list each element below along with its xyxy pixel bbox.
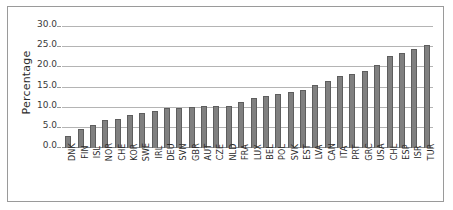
- bar-cell: [272, 27, 284, 148]
- y-axis-tick-label: 15.0: [37, 80, 57, 90]
- bar-cell: [322, 27, 334, 148]
- x-axis-tick-label: CAN: [322, 150, 334, 194]
- x-axis-tick-label: NOR: [99, 150, 111, 194]
- bar-cell: [186, 27, 198, 148]
- x-axis-tick-label: CZE: [210, 150, 222, 194]
- bar-cell: [235, 27, 247, 148]
- x-axis-tick-label: TUR: [420, 150, 432, 194]
- bar-cell: [247, 27, 259, 148]
- bar: [176, 108, 182, 148]
- y-axis-tick-label: 20.0: [37, 59, 57, 69]
- bar: [288, 92, 294, 148]
- x-axis-tick-label: DEU: [161, 150, 173, 194]
- bar-cell: [383, 27, 395, 148]
- bar-cell: [136, 27, 148, 148]
- x-axis-tick-label: ISR: [408, 150, 420, 194]
- bar: [152, 111, 158, 148]
- x-axis-tick-label: GBR: [186, 150, 198, 194]
- plot-area: 0.05.010.015.020.025.030.0: [62, 27, 433, 148]
- x-axis-tick-label: LUX: [247, 150, 259, 194]
- bar: [263, 96, 269, 148]
- x-axis-tick-label: LVA: [309, 150, 321, 194]
- bar-cell: [173, 27, 185, 148]
- bar: [213, 106, 219, 148]
- bar-cell: [309, 27, 321, 148]
- bar-cell: [408, 27, 420, 148]
- bar-cell: [99, 27, 111, 148]
- y-axis-tick-label: 10.0: [37, 100, 57, 110]
- x-axis-tick-label: ISL: [87, 150, 99, 194]
- x-axis-tick-label: FIN: [74, 150, 86, 194]
- x-axis-tick-label: FRA: [235, 150, 247, 194]
- x-axis-tick-label: SWE: [136, 150, 148, 194]
- bar: [387, 56, 393, 148]
- bar-cell: [87, 27, 99, 148]
- bar: [374, 65, 380, 148]
- bar: [325, 81, 331, 148]
- y-axis-tickmark: [57, 147, 61, 148]
- y-axis-title: Percentage: [16, 17, 38, 147]
- x-axis-tick-label: ITA: [334, 150, 346, 194]
- bar: [226, 106, 232, 148]
- bar: [251, 98, 257, 148]
- y-axis-tickmark: [57, 127, 61, 128]
- bar-cell: [359, 27, 371, 148]
- bar-cell: [62, 27, 74, 148]
- y-axis-tick-label: 25.0: [37, 39, 57, 49]
- y-axis-tick-label: 5.0: [43, 120, 57, 130]
- x-axis-tick-label-text: TUR: [427, 144, 436, 161]
- bar-cell: [396, 27, 408, 148]
- bar: [411, 49, 417, 148]
- y-axis-tickmark: [57, 46, 61, 47]
- bar: [189, 107, 195, 148]
- y-axis-tick-label: 30.0: [37, 19, 57, 29]
- bar: [238, 102, 244, 148]
- bar-cell: [74, 27, 86, 148]
- y-axis-tickmark: [57, 107, 61, 108]
- y-axis-title-text: Percentage: [21, 50, 34, 114]
- bar-cell: [297, 27, 309, 148]
- x-axis-tick-label: BEL: [260, 150, 272, 194]
- x-axis-tick-label: EST: [297, 150, 309, 194]
- bar: [399, 53, 405, 148]
- y-axis-tickmark: [57, 26, 61, 27]
- x-axis-tick-label: POL: [272, 150, 284, 194]
- bar: [201, 106, 207, 148]
- x-axis-tick-labels: DNKFINISLNORCHEKORSWEIRLDEUSVNGBRAUTCZEN…: [62, 150, 433, 194]
- bar-cell: [371, 27, 383, 148]
- x-axis-tick-label: NLD: [223, 150, 235, 194]
- x-axis-tick-label: ESP: [396, 150, 408, 194]
- y-axis-tickmark: [57, 66, 61, 67]
- x-axis-tick-label: CHL: [383, 150, 395, 194]
- x-axis-tick-label: GRC: [359, 150, 371, 194]
- bar-cell: [223, 27, 235, 148]
- bar-cell: [260, 27, 272, 148]
- bar-cell: [111, 27, 123, 148]
- y-axis-tickmark: [57, 87, 61, 88]
- bar: [424, 45, 430, 148]
- bar-cell: [210, 27, 222, 148]
- bar: [164, 108, 170, 148]
- x-axis-tick-label: IRL: [149, 150, 161, 194]
- bar-cell: [161, 27, 173, 148]
- bar-cell: [420, 27, 432, 148]
- x-axis-tick-label: USA: [371, 150, 383, 194]
- bar: [362, 71, 368, 148]
- bar-series: [62, 27, 433, 148]
- bar-cell: [149, 27, 161, 148]
- x-axis-tick-label: CHE: [111, 150, 123, 194]
- bar-cell: [124, 27, 136, 148]
- x-axis-tick-label: PRT: [346, 150, 358, 194]
- y-axis-tick-label: 0.0: [43, 140, 57, 150]
- bar: [275, 94, 281, 148]
- bar-cell: [334, 27, 346, 148]
- x-axis-tick-label: KOR: [124, 150, 136, 194]
- bar: [349, 74, 355, 148]
- chart-figure: Percentage 0.05.010.015.020.025.030.0 DN…: [7, 6, 444, 202]
- bar: [337, 76, 343, 148]
- x-axis-tick-label: DNK: [62, 150, 74, 194]
- x-axis-tick-label: SVK: [284, 150, 296, 194]
- bar-cell: [284, 27, 296, 148]
- bar: [300, 90, 306, 148]
- bar-cell: [198, 27, 210, 148]
